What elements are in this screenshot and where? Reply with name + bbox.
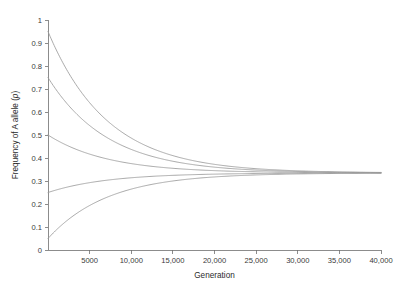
x-tick-label: 25,000	[245, 256, 268, 265]
x-axis: 500010,00015,00020,00025,00030,00035,000…	[48, 250, 393, 280]
y-tick-label: 1	[38, 16, 42, 25]
x-tick-group: 500010,00015,00020,00025,00030,00035,000…	[81, 250, 392, 265]
x-tick-label: 15,000	[161, 256, 184, 265]
y-tick-label: 0.4	[31, 154, 42, 163]
y-tick-label: 0	[38, 246, 42, 255]
x-tick-label: 5000	[81, 256, 98, 265]
y-tick-label: 0.1	[31, 223, 42, 232]
x-axis-title: Generation	[194, 271, 235, 280]
allele-frequency-line-chart: 00.10.20.30.40.50.60.70.80.91 Frequency …	[0, 0, 401, 292]
y-tick-label: 0.2	[31, 200, 42, 209]
y-axis-title: Frequency of A allele (p)	[11, 91, 20, 180]
x-tick-label: 35,000	[328, 256, 351, 265]
y-tick-label: 0.9	[31, 39, 42, 48]
y-tick-label: 0.5	[31, 131, 42, 140]
y-tick-label: 0.8	[31, 62, 42, 71]
x-tick-label: 10,000	[120, 256, 143, 265]
data-curve-1	[48, 78, 381, 173]
data-curve-0	[48, 32, 381, 173]
y-tick-group: 00.10.20.30.40.50.60.70.80.91	[31, 16, 48, 255]
x-tick-label: 20,000	[203, 256, 226, 265]
chart-figure: 00.10.20.30.40.50.60.70.80.91 Frequency …	[0, 0, 401, 292]
x-tick-label: 40,000	[369, 256, 392, 265]
y-tick-label: 0.3	[31, 177, 42, 186]
y-tick-label: 0.7	[31, 85, 42, 94]
data-curve-4	[48, 173, 381, 238]
data-curve-3	[48, 173, 381, 192]
x-tick-label: 30,000	[286, 256, 309, 265]
y-tick-label: 0.6	[31, 108, 42, 117]
data-curves-group	[48, 32, 381, 239]
y-axis: 00.10.20.30.40.50.60.70.80.91 Frequency …	[11, 16, 48, 255]
